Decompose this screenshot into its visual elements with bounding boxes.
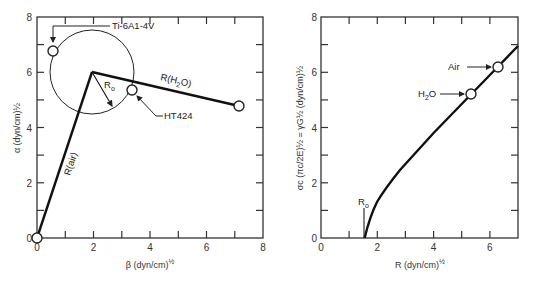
- left-y-axis-label: α (dyn/cm)½: [12, 102, 22, 153]
- right-y-tick-0: 0: [311, 233, 317, 244]
- left-chart: 0 2 4 6 8 0 2 4 6 8 β (dyn/cm)½ α (dyn/c…: [12, 12, 266, 270]
- left-y-tick-6: 6: [26, 67, 32, 78]
- figure: 0 2 4 6 8 0 2 4 6 8 β (dyn/cm)½ α (dyn/c…: [0, 0, 534, 281]
- left-x-tick-6: 6: [204, 242, 210, 253]
- h2o-label: H2O: [418, 88, 436, 101]
- right-x-tick-4: 4: [431, 242, 437, 253]
- ti-6al-4v-label: Ti-6A1-4V: [112, 20, 155, 31]
- right-x-tick-2: 2: [375, 242, 381, 253]
- air-point: [493, 62, 503, 72]
- right-x-tick-6: 6: [487, 242, 493, 253]
- ti-callout-line: [53, 26, 110, 42]
- right-plot-frame: [321, 17, 518, 238]
- right-y-tick-8: 8: [311, 12, 317, 23]
- ht424-callout-line: [137, 96, 163, 116]
- left-x-tick-8: 8: [260, 242, 266, 253]
- left-y-tick-4: 4: [26, 123, 32, 134]
- right-y-tick-6: 6: [311, 67, 317, 78]
- right-x-tick-0: 0: [318, 242, 324, 253]
- right-x-ticks: [349, 17, 490, 238]
- right-chart: 0 2 4 6 0 2 4 6 8 R (dyn/cm)½ σc (πc/2E)…: [295, 12, 518, 270]
- ht424-point: [127, 85, 137, 95]
- ro-label: Ro: [104, 79, 115, 92]
- right-y-axis-label: σc (πc/2E)½ = γG½ (dyn/cm)½: [295, 65, 305, 190]
- right-ro-label: Ro: [358, 196, 369, 209]
- right-x-axis-label: R (dyn/cm)½: [395, 258, 445, 270]
- left-plot-frame: [37, 17, 263, 238]
- r-air-line: [37, 72, 92, 238]
- origin-point: [32, 233, 42, 243]
- sigma-c-curve: [365, 46, 518, 238]
- left-x-tick-4: 4: [147, 242, 153, 253]
- right-y-tick-4: 4: [311, 123, 317, 134]
- left-y-tick-2: 2: [26, 178, 32, 189]
- left-y-tick-8: 8: [26, 12, 32, 23]
- left-x-ticks: [65, 17, 235, 238]
- h2o-point: [466, 89, 476, 99]
- left-x-axis-label: β (dyn/cm)½: [126, 258, 175, 270]
- right-y-ticks: [321, 45, 518, 211]
- ti-6al-4v-point: [48, 46, 58, 56]
- left-y-ticks: [37, 45, 263, 211]
- left-x-tick-2: 2: [91, 242, 97, 253]
- air-label: Air: [448, 61, 460, 72]
- h2o-end-point: [234, 101, 244, 111]
- ht424-label: HT424: [164, 110, 193, 121]
- right-y-tick-2: 2: [311, 178, 317, 189]
